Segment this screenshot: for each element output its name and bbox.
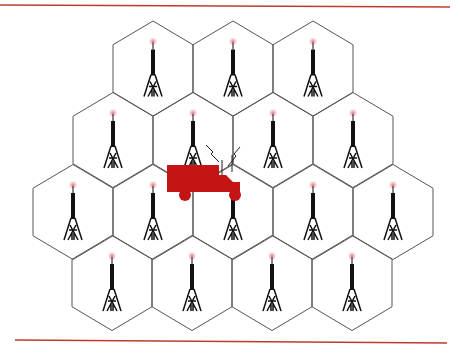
cell-tower-icon	[384, 181, 402, 241]
truck-vehicle	[167, 145, 241, 201]
cell	[273, 165, 353, 260]
cell-tower-icon	[344, 109, 362, 169]
horizontal-rules	[0, 5, 450, 343]
cell	[232, 236, 312, 331]
cell-tower-icon	[103, 252, 121, 312]
cell	[313, 93, 393, 188]
diagram-canvas	[0, 0, 460, 360]
cell-tower-icon	[304, 181, 322, 241]
cell-tower-icon	[183, 252, 201, 312]
cell	[233, 93, 313, 188]
cell-tower-icon	[184, 109, 202, 169]
cell-tower-icon	[264, 109, 282, 169]
cell-tower-icon	[263, 252, 281, 312]
bottom-rule	[15, 340, 447, 343]
cell-tower-icon	[304, 37, 322, 97]
signal-bolt-icon	[228, 147, 240, 166]
cell	[73, 93, 153, 188]
cell	[72, 236, 152, 331]
cell	[312, 236, 392, 331]
cell-tower-icon	[64, 181, 82, 241]
cell	[273, 21, 353, 116]
cell-tower-icon	[104, 109, 122, 169]
top-rule	[0, 5, 450, 7]
truck-wheel-rear	[179, 189, 191, 201]
cell-tower-icon	[343, 252, 361, 312]
signal-bolt-icon	[206, 145, 219, 162]
cell	[152, 236, 232, 331]
cell	[353, 165, 433, 260]
cell	[33, 165, 113, 260]
cell	[193, 21, 273, 116]
truck-wheel-front	[229, 189, 241, 201]
cell-tower-icon	[224, 37, 242, 97]
truck-cargo-box	[167, 165, 219, 192]
cellular-network-diagram: Cellular network: hexagonal cells each w…	[0, 0, 460, 360]
cell-tower-icon	[144, 181, 162, 241]
hexagonal-cells	[33, 21, 433, 331]
cell	[113, 21, 193, 116]
cell-tower-icon	[144, 37, 162, 97]
